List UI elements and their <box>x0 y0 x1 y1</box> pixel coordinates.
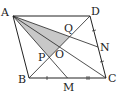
label-M: M <box>63 81 74 94</box>
tick-DN <box>92 30 96 31</box>
label-P: P <box>38 51 46 64</box>
tick-NC <box>100 61 104 62</box>
label-Q: Q <box>64 22 73 35</box>
label-C: C <box>108 72 116 85</box>
label-D: D <box>91 5 100 18</box>
label-N: N <box>100 41 110 54</box>
label-O: O <box>55 48 64 61</box>
label-A: A <box>0 6 10 19</box>
geometry-diagram: A D B C M N O P Q <box>0 0 119 94</box>
label-B: B <box>18 73 26 86</box>
